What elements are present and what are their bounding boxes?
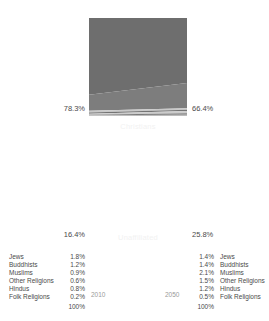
legend-item[interactable]: Other Religions 0.6% (9, 277, 87, 285)
value-unaffiliated-2050: 25.8% (192, 230, 213, 239)
legend-label: Hindus (9, 285, 57, 293)
axis-label-2010: 2010 (91, 291, 105, 298)
legend-label: Other Religions (214, 277, 265, 285)
legend-value: 2.1% (192, 269, 214, 277)
legend-item[interactable]: 1.2% Hindus (192, 285, 266, 293)
legend-label: Buddhists (9, 261, 57, 269)
value-christians-2010: 78.3% (31, 104, 85, 113)
legend-item[interactable]: 1.5% Other Religions (192, 277, 266, 285)
band-label-christians: Christians (89, 122, 187, 131)
chart-page: Christians Unaffiliated 78.3% 66.4% 16.4… (0, 0, 269, 321)
legend-value: 0.6% (57, 277, 85, 285)
legend-value: 0.8% (57, 285, 85, 293)
legend-item[interactable]: Jews 1.8% (9, 253, 87, 261)
page-title (2, 0, 76, 4)
value-christians-2050: 66.4% (192, 104, 213, 113)
legend-label: Jews (9, 253, 57, 261)
legend-2010: Jews 1.8% Buddhists 1.2% Muslims 0.9% Ot… (9, 253, 87, 300)
band-christians[interactable] (89, 18, 187, 95)
legend-value: 0.5% (192, 293, 214, 301)
legend-value: 1.2% (192, 285, 214, 293)
legend-value: 0.2% (57, 293, 85, 301)
legend-label: Hindus (214, 285, 240, 293)
legend-value: 0.9% (57, 269, 85, 277)
legend-label: Folk Religions (214, 293, 261, 301)
stacked-area-plot: Christians Unaffiliated (89, 18, 187, 292)
band-label-unaffiliated: Unaffiliated (89, 233, 187, 242)
legend-value: 1.4% (192, 253, 214, 261)
total-2050: 100% (192, 303, 214, 310)
legend-label: Buddhists (214, 261, 249, 269)
legend-value: 1.4% (192, 261, 214, 269)
legend-value: 1.8% (57, 253, 85, 261)
area-bands (89, 18, 187, 116)
legend-item[interactable]: Muslims 0.9% (9, 269, 87, 277)
legend-item[interactable]: Hindus 0.8% (9, 285, 87, 293)
legend-label: Muslims (214, 269, 244, 277)
legend-item[interactable]: 2.1% Muslims (192, 269, 266, 277)
legend-item[interactable]: 1.4% Buddhists (192, 261, 266, 269)
value-unaffiliated-2010: 16.4% (31, 230, 85, 239)
total-2010: 100% (9, 303, 85, 310)
legend-value: 1.5% (192, 277, 214, 285)
legend-item[interactable]: Buddhists 1.2% (9, 261, 87, 269)
legend-label: Folk Religions (9, 293, 57, 301)
legend-label: Muslims (9, 269, 57, 277)
legend-item[interactable]: 0.5% Folk Religions (192, 293, 266, 301)
axis-label-2050: 2050 (165, 291, 179, 298)
legend-2050: 1.4% Jews 1.4% Buddhists 2.1% Muslims 1.… (192, 253, 266, 300)
legend-label: Jews (214, 253, 235, 261)
legend-item[interactable]: Folk Religions 0.2% (9, 293, 87, 301)
legend-label: Other Religions (9, 277, 57, 285)
legend-value: 1.2% (57, 261, 85, 269)
legend-item[interactable]: 1.4% Jews (192, 253, 266, 261)
